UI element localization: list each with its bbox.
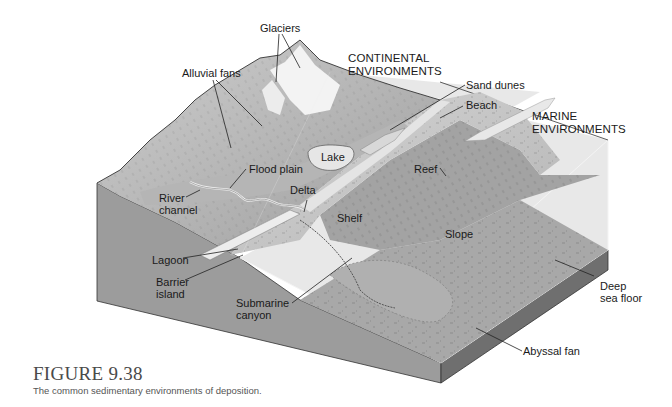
label-sand-dunes: Sand dunes — [466, 79, 525, 91]
label-river-channel: River channel — [159, 192, 198, 216]
label-continental-environments: CONTINENTAL ENVIRONMENTS — [348, 52, 442, 78]
label-barrier-island: Barrier island — [156, 276, 189, 300]
label-glaciers: Glaciers — [260, 22, 300, 34]
label-alluvial-fans: Alluvial fans — [182, 67, 241, 79]
label-shelf: Shelf — [337, 212, 362, 224]
label-abyssal-fan: Abyssal fan — [523, 345, 580, 357]
label-reef: Reef — [414, 163, 437, 175]
figure-number: FIGURE 9.38 — [33, 363, 143, 385]
figure-caption: The common sedimentary environments of d… — [33, 385, 262, 396]
label-delta: Delta — [290, 184, 316, 196]
label-lake: Lake — [321, 151, 345, 163]
label-lagoon: Lagoon — [152, 254, 189, 266]
label-slope: Slope — [445, 228, 473, 240]
label-deep-sea-floor: Deep sea floor — [600, 280, 642, 304]
label-flood-plain: Flood plain — [249, 163, 303, 175]
label-beach: Beach — [466, 99, 497, 111]
label-submarine-canyon: Submarine canyon — [236, 297, 289, 321]
label-marine-environments: MARINE ENVIRONMENTS — [532, 110, 626, 136]
